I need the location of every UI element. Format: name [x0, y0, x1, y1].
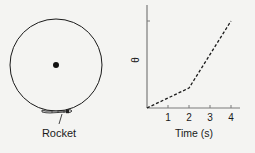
rocket-label: Rocket	[42, 127, 76, 139]
x-tick-label-2: 2	[186, 112, 192, 123]
theta-time-chart: 1 2 3 4 Time (s) θ	[130, 5, 240, 139]
figure: Rocket 1 2 3 4 Time (s) θ	[0, 0, 255, 153]
circular-track-diagram: Rocket	[10, 19, 102, 139]
y-axis-label: θ	[130, 57, 141, 63]
rocket-label-leader	[59, 114, 62, 124]
x-tick-label-1: 1	[165, 112, 171, 123]
x-axis-label: Time (s)	[175, 127, 213, 139]
theta-line	[147, 21, 231, 108]
center-pivot-dot	[53, 62, 59, 68]
x-tick-label-4: 4	[228, 112, 234, 123]
x-tick-label-3: 3	[207, 112, 213, 123]
